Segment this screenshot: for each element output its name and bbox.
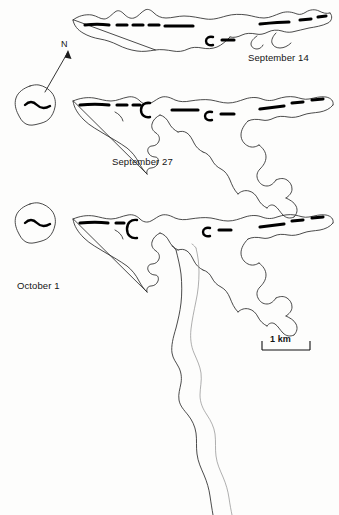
inset-island-oct1	[15, 203, 55, 243]
panel-label-oct1: October 1	[17, 280, 60, 291]
panel-sept14	[15, 9, 332, 125]
floe-outline-sept14	[73, 9, 332, 51]
scale-bar-label: 1 km	[270, 334, 291, 344]
map-illustration	[0, 0, 339, 515]
panel-label-sept14: September 14	[248, 52, 309, 63]
panel-oct1	[15, 203, 333, 515]
north-arrow-icon	[45, 50, 72, 92]
lead-marks-sept14	[85, 16, 326, 45]
panel-label-sept27: September 27	[112, 156, 173, 167]
figure-container: N September 14 September 27 October 1 1 …	[0, 0, 339, 515]
inset-island-sept14	[15, 85, 55, 125]
north-arrow-label: N	[61, 39, 68, 49]
floe-outline-oct1	[73, 215, 333, 515]
